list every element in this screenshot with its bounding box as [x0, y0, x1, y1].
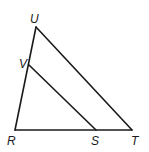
label-T: T	[131, 134, 140, 148]
segment-UR	[15, 27, 36, 130]
label-S: S	[91, 134, 99, 148]
label-U: U	[30, 12, 39, 26]
segment-VS	[29, 65, 96, 130]
label-V: V	[19, 57, 28, 71]
triangle-diagram: U V R S T	[0, 0, 149, 152]
label-R: R	[7, 134, 16, 148]
segment-UT	[36, 27, 132, 130]
